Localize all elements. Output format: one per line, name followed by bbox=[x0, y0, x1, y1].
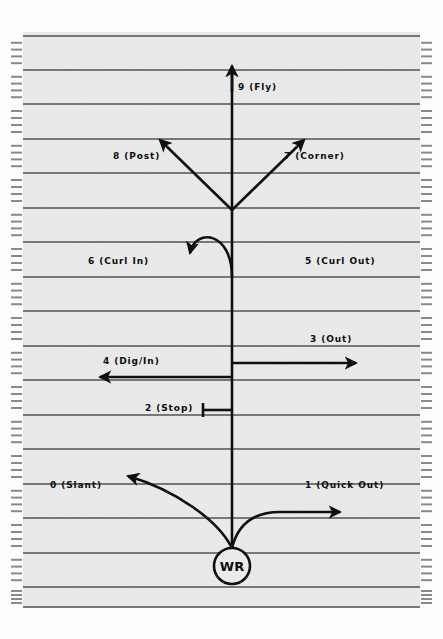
route-label-corner: 7 (Corner) bbox=[284, 152, 345, 161]
route-label-slant: 0 (Slant) bbox=[50, 481, 102, 490]
wr-marker-label: WR bbox=[220, 560, 244, 573]
route-label-out: 3 (Out) bbox=[310, 335, 352, 344]
route-label-fly: 9 (Fly) bbox=[238, 83, 277, 92]
route-label-curl-out: 5 (Curl Out) bbox=[305, 257, 375, 266]
route-label-stop: 2 (Stop) bbox=[145, 404, 193, 413]
field-paper-grain bbox=[23, 32, 420, 607]
football-field-canvas bbox=[0, 0, 443, 639]
route-label-post: 8 (Post) bbox=[113, 152, 160, 161]
route-label-curl-in: 6 (Curl In) bbox=[88, 257, 149, 266]
route-tree-diagram: 0 (Slant) 1 (Quick Out) 2 (Stop) 3 (Out)… bbox=[0, 0, 443, 639]
route-label-quick-out: 1 (Quick Out) bbox=[305, 481, 384, 490]
route-label-dig-in: 4 (Dig/In) bbox=[103, 357, 160, 366]
